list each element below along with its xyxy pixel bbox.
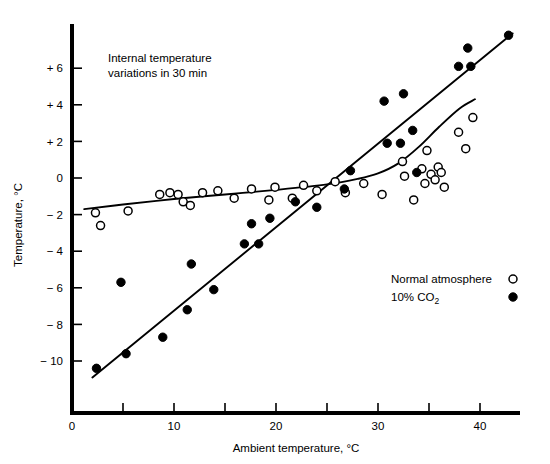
x-tick-label-30: 30 [372, 420, 385, 432]
data-point-open [271, 183, 279, 191]
x-axis-title: Ambient temperature, °C [233, 442, 360, 454]
fit-curves-group [84, 33, 512, 377]
data-point-filled [454, 62, 462, 70]
data-point-filled [346, 166, 354, 174]
y-tick-label-0: 0 [57, 172, 63, 184]
data-point-filled [396, 139, 404, 147]
x-tick-label-20: 20 [270, 420, 283, 432]
data-point-open [398, 158, 406, 166]
data-point-filled [313, 203, 321, 211]
data-point-filled [240, 240, 248, 248]
data-point-open [455, 128, 463, 136]
data-point-filled [247, 220, 255, 228]
data-point-open [360, 179, 368, 187]
data-point-open [124, 207, 132, 215]
y-tick-label-6: + 6 [47, 62, 63, 74]
data-point-open [156, 190, 164, 198]
normal-atmosphere-trend-line [84, 99, 475, 209]
data-point-filled [380, 97, 388, 105]
annotation-line-2: variations in 30 min [108, 67, 207, 79]
data-point-filled [383, 139, 391, 147]
legend-label-co2: 10% CO2 [391, 291, 439, 306]
data-point-filled [254, 240, 262, 248]
data-point-open [469, 114, 477, 122]
y-tick-labels: + 6 + 4 + 2 0 − 2 − 4 − 6 − 8 − 10 [40, 62, 63, 367]
chart-figure: + 6 + 4 + 2 0 − 2 − 4 − 6 − 8 − 10 0 10 [0, 0, 550, 464]
data-point-open [91, 209, 99, 217]
y-tick-label-m4: − 4 [47, 245, 64, 257]
y-tick-label-m8: − 8 [47, 319, 63, 331]
y-axis-title: Temperature, °C [12, 183, 24, 267]
data-point-filled [266, 214, 274, 222]
data-point-open [410, 196, 418, 204]
data-point-open [378, 190, 386, 198]
data-point-filled [122, 349, 130, 357]
data-point-filled [210, 285, 218, 293]
data-point-filled [117, 278, 125, 286]
data-point-open [265, 196, 273, 204]
data-point-open [421, 179, 429, 187]
y-tick-label-2: + 2 [47, 136, 63, 148]
data-point-filled [399, 90, 407, 98]
data-point-open [331, 178, 339, 186]
data-point-filled [187, 260, 195, 268]
data-point-open [199, 189, 207, 197]
data-point-filled [504, 31, 512, 39]
co2-trend-line [92, 33, 512, 377]
y-tick-label-m10: − 10 [40, 355, 63, 367]
legend-label-normal-atmosphere: Normal atmosphere [391, 273, 492, 285]
data-point-open [440, 183, 448, 191]
data-point-open [431, 176, 439, 184]
data-point-open [437, 169, 445, 177]
x-tick-label-0: 0 [69, 420, 75, 432]
legend-open-circle-icon [509, 275, 517, 283]
data-point-filled [340, 185, 348, 193]
y-tick-label-m2: − 2 [47, 209, 63, 221]
data-point-open [174, 190, 182, 198]
scatter-plot: + 6 + 4 + 2 0 − 2 − 4 − 6 − 8 − 10 0 10 [0, 0, 550, 464]
data-point-filled [408, 126, 416, 134]
x-tick-label-40: 40 [474, 420, 487, 432]
chart-legend: Normal atmosphere 10% CO2 [391, 273, 517, 306]
x-tick-label-10: 10 [168, 420, 181, 432]
data-point-filled [291, 198, 299, 206]
data-point-filled [464, 44, 472, 52]
y-tick-label-4: + 4 [47, 99, 64, 111]
x-tick-labels: 0 10 20 30 40 [69, 420, 487, 432]
data-point-open [462, 145, 470, 153]
data-point-filled [413, 168, 421, 176]
data-point-filled [183, 306, 191, 314]
data-point-filled [92, 364, 100, 372]
data-point-open [300, 181, 308, 189]
annotation-line-1: Internal temperature [108, 52, 212, 64]
plot-annotation: Internal temperature variations in 30 mi… [108, 52, 212, 79]
data-point-open [313, 187, 321, 195]
data-point-open [166, 189, 174, 197]
data-point-open [97, 222, 105, 230]
data-point-open [214, 187, 222, 195]
data-point-filled [467, 62, 475, 70]
data-point-filled [159, 333, 167, 341]
data-point-open [423, 147, 431, 155]
legend-filled-circle-icon [509, 293, 517, 301]
data-point-open [401, 172, 409, 180]
y-tick-label-m6: − 6 [47, 282, 63, 294]
data-point-open [248, 185, 256, 193]
data-point-open [230, 194, 238, 202]
data-point-open [186, 201, 194, 209]
